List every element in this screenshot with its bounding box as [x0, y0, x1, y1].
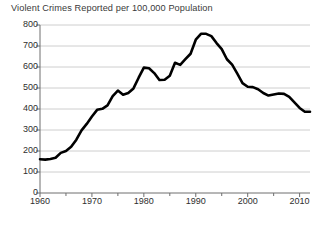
- x-axis-tick-labels: 196019701980199020002010: [0, 0, 318, 230]
- x-tick-label: 1970: [72, 196, 112, 206]
- x-tick-label: 2010: [280, 196, 318, 206]
- x-tick-label: 1980: [124, 196, 164, 206]
- x-tick-label: 1990: [176, 196, 216, 206]
- x-tick-label: 1960: [20, 196, 60, 206]
- x-tick-label: 2000: [228, 196, 268, 206]
- chart-figure: Violent Crimes Reported per 100,000 Popu…: [0, 0, 318, 230]
